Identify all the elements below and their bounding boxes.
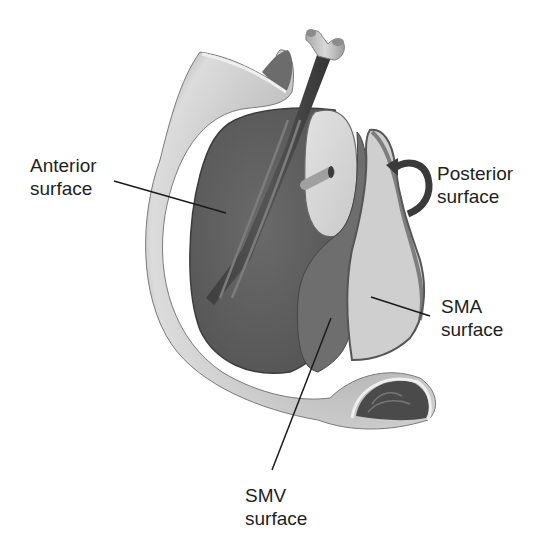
label-posterior-line2: surface — [437, 185, 513, 208]
label-smv-line2: surface — [245, 507, 307, 530]
figure-caption-cropped — [0, 538, 551, 553]
label-smv-line1: SMV — [245, 484, 307, 507]
label-anterior-line2: surface — [30, 177, 97, 200]
label-sma-surface: SMA surface — [441, 295, 503, 341]
label-sma-line2: surface — [441, 318, 503, 341]
label-posterior-line1: Posterior — [437, 162, 513, 185]
label-anterior-surface: Anterior surface — [30, 154, 97, 200]
label-smv-surface: SMV surface — [245, 484, 307, 530]
pancreas-specimen-illustration — [0, 0, 551, 553]
label-posterior-surface: Posterior surface — [437, 162, 513, 208]
label-sma-line1: SMA — [441, 295, 503, 318]
label-anterior-line1: Anterior — [30, 154, 97, 177]
